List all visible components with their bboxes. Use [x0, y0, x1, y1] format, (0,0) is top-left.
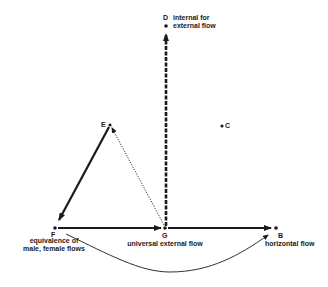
point-d-label-line1: internal for: [173, 14, 210, 22]
point-f-label-line2: male, female flows: [14, 245, 94, 253]
point-f: [53, 226, 57, 230]
point-d: [164, 24, 168, 28]
point-g-letter: G: [162, 232, 167, 240]
edge-g-to-e: [112, 128, 164, 225]
point-b: [274, 226, 278, 230]
point-b-letter: B: [278, 232, 283, 240]
point-g: [163, 226, 167, 230]
point-b-label: horizontal flow: [265, 240, 314, 248]
point-c-letter: C: [225, 122, 230, 130]
flow-diagram: D internal for external flow E C F equiv…: [0, 0, 328, 287]
point-c: [220, 124, 223, 127]
point-e: [108, 123, 111, 126]
point-g-label: universal external flow: [115, 240, 215, 248]
point-f-label-line1: equivalence of: [14, 237, 94, 245]
edge-e-to-f: [59, 127, 109, 220]
point-d-letter: D: [163, 14, 168, 22]
point-d-label-line2: external flow: [173, 22, 216, 30]
point-e-letter: E: [101, 121, 106, 129]
